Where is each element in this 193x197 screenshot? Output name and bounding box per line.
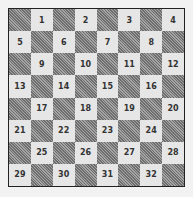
numbered-square: 23 (97, 120, 119, 142)
dark-square (162, 120, 184, 142)
dark-square (162, 164, 184, 186)
numbered-square: 25 (31, 142, 53, 164)
numbered-square: 28 (162, 142, 184, 164)
numbered-square: 32 (140, 164, 162, 186)
dark-square (31, 75, 53, 97)
numbered-square: 15 (97, 75, 119, 97)
numbered-square: 9 (31, 53, 53, 75)
numbered-square: 10 (75, 53, 97, 75)
dark-square (31, 120, 53, 142)
numbered-square: 27 (118, 142, 140, 164)
numbered-square: 7 (97, 31, 119, 53)
dark-square (97, 98, 119, 120)
dark-square (140, 142, 162, 164)
dark-square (140, 9, 162, 31)
dark-square (53, 53, 75, 75)
numbered-square: 11 (118, 53, 140, 75)
dark-square (53, 142, 75, 164)
dark-square (97, 142, 119, 164)
dark-square (75, 120, 97, 142)
numbered-square: 19 (118, 98, 140, 120)
numbered-square: 8 (140, 31, 162, 53)
numbered-square: 2 (75, 9, 97, 31)
numbered-square: 5 (9, 31, 31, 53)
dark-square (9, 142, 31, 164)
dark-square (9, 9, 31, 31)
dark-square (9, 98, 31, 120)
numbered-square: 16 (140, 75, 162, 97)
dark-square (118, 31, 140, 53)
numbered-square: 17 (31, 98, 53, 120)
numbered-square: 4 (162, 9, 184, 31)
dark-square (75, 31, 97, 53)
dark-square (31, 164, 53, 186)
numbered-square: 29 (9, 164, 31, 186)
dark-square (97, 53, 119, 75)
numbered-square: 18 (75, 98, 97, 120)
numbered-square: 12 (162, 53, 184, 75)
dark-square (162, 75, 184, 97)
numbered-square: 22 (53, 120, 75, 142)
dark-square (75, 164, 97, 186)
dark-square (75, 75, 97, 97)
dark-square (53, 98, 75, 120)
numbered-square: 26 (75, 142, 97, 164)
checkerboard: 1234567891011121314151617181920212223242… (8, 8, 185, 187)
numbered-square: 30 (53, 164, 75, 186)
dark-square (9, 53, 31, 75)
dark-square (140, 98, 162, 120)
numbered-square: 13 (9, 75, 31, 97)
numbered-square: 20 (162, 98, 184, 120)
numbered-square: 1 (31, 9, 53, 31)
numbered-square: 6 (53, 31, 75, 53)
numbered-square: 21 (9, 120, 31, 142)
numbered-square: 24 (140, 120, 162, 142)
numbered-square: 31 (97, 164, 119, 186)
dark-square (97, 9, 119, 31)
numbered-square: 3 (118, 9, 140, 31)
dark-square (162, 31, 184, 53)
dark-square (31, 31, 53, 53)
dark-square (53, 9, 75, 31)
dark-square (140, 53, 162, 75)
numbered-square: 14 (53, 75, 75, 97)
dark-square (118, 164, 140, 186)
dark-square (118, 75, 140, 97)
dark-square (118, 120, 140, 142)
